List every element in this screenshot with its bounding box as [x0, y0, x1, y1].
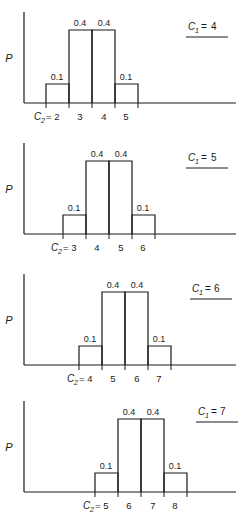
y-axis-label: P [5, 441, 13, 453]
panel-tag-subscript: 1 [195, 158, 199, 165]
panel-tag-subscript: 1 [205, 412, 209, 419]
x-axis-variable-subscript: 2 [40, 117, 45, 124]
tick-label-3: 7 [150, 500, 155, 511]
bar-2 [118, 419, 141, 492]
y-axis-label: P [5, 183, 13, 195]
panel-4-plot: P 0.1 0.4 0.4 0.1 C 2 = 5 6 7 8 C 1 = 7 [0, 393, 241, 524]
value-label-2: 0.4 [107, 280, 120, 290]
panel-1-plot: P 0.1 0.4 0.4 0.1 C 2 = 2 3 4 5 C 1 = 4 [0, 0, 241, 131]
value-label-1: 0.1 [68, 203, 81, 213]
bar-4 [132, 215, 155, 234]
panel-4: P 0.1 0.4 0.4 0.1 C 2 = 5 6 7 8 C 1 = 7 [0, 393, 241, 524]
tick-label-1: 4 [87, 373, 92, 384]
panel-tag-equals: = [211, 406, 217, 417]
tick-label-1: 2 [54, 111, 59, 122]
panel-2: P 0.1 0.4 0.4 0.1 C 2 = 3 4 5 6 C 1 = 5 [0, 131, 241, 262]
bar-3 [109, 161, 132, 234]
x-axis-variable-subscript: 2 [73, 379, 78, 386]
panel-1: P 0.1 0.4 0.4 0.1 C 2 = 2 3 4 5 C 1 = 4 [0, 0, 241, 131]
x-axis-variable-subscript: 2 [57, 248, 62, 255]
panel-tag-equals: = [205, 283, 211, 294]
tick-label-2: 6 [126, 500, 131, 511]
x-axis-equals: = [63, 242, 69, 253]
x-tick-labels: C 2 = 4 5 6 7 [67, 373, 162, 386]
panel-tag: C 1 = 6 [190, 283, 232, 299]
y-axis-label: P [5, 314, 13, 326]
x-tick-labels: C 2 = 2 3 4 5 [34, 111, 129, 124]
panel-2-plot: P 0.1 0.4 0.4 0.1 C 2 = 3 4 5 6 C 1 = 5 [0, 131, 241, 262]
tick-label-1: 3 [71, 242, 76, 253]
x-axis-equals: = [79, 373, 85, 384]
panel-tag: C 1 = 4 [186, 21, 228, 37]
panel-tag-value: 6 [214, 283, 220, 294]
bar-1 [79, 346, 102, 365]
tick-label-3: 6 [134, 373, 139, 384]
value-label-2: 0.4 [123, 407, 136, 417]
panel-tag: C 1 = 7 [196, 406, 238, 422]
y-axis-label: P [5, 52, 13, 64]
tick-label-4: 6 [140, 242, 145, 253]
x-axis-variable-subscript: 2 [89, 506, 94, 513]
panel-tag-equals: = [201, 152, 207, 163]
panel-tag-subscript: 1 [195, 27, 199, 34]
value-label-1: 0.1 [84, 334, 97, 344]
bar-4 [115, 84, 138, 103]
panel-tag-value: 4 [211, 21, 217, 32]
value-label-3: 0.4 [115, 149, 128, 159]
value-label-1: 0.1 [51, 72, 64, 82]
value-label-4: 0.1 [169, 461, 182, 471]
panel-tag-subscript: 1 [199, 289, 203, 296]
figure-multi-panel-histogram: P 0.1 0.4 0.4 0.1 C 2 = 2 3 4 5 C 1 = 4 [0, 0, 241, 524]
bar-1 [46, 84, 69, 103]
value-label-1: 0.1 [100, 461, 113, 471]
x-axis-ticks [63, 234, 155, 239]
x-axis-ticks [95, 492, 187, 497]
bar-4 [148, 346, 171, 365]
tick-label-2: 4 [94, 242, 99, 253]
x-axis-ticks [46, 103, 138, 108]
value-label-3: 0.4 [131, 280, 144, 290]
bar-1 [95, 473, 118, 492]
x-axis-ticks [79, 365, 171, 370]
x-axis-equals: = [46, 111, 52, 122]
value-label-4: 0.1 [153, 334, 166, 344]
x-tick-labels: C 2 = 3 4 5 6 [51, 242, 146, 255]
x-tick-labels: C 2 = 5 6 7 8 [83, 500, 178, 513]
tick-label-4: 8 [172, 500, 177, 511]
tick-label-2: 5 [110, 373, 115, 384]
bar-1 [63, 215, 86, 234]
bar-2 [102, 292, 125, 365]
panel-3-plot: P 0.1 0.4 0.4 0.1 C 2 = 4 5 6 7 C 1 = 6 [0, 262, 241, 393]
panel-tag-value: 7 [220, 406, 226, 417]
value-label-3: 0.4 [98, 18, 111, 28]
tick-label-1: 5 [103, 500, 108, 511]
tick-label-2: 3 [77, 111, 82, 122]
value-label-3: 0.4 [147, 407, 160, 417]
value-label-4: 0.1 [137, 203, 150, 213]
tick-label-4: 5 [123, 111, 128, 122]
panel-tag-equals: = [201, 21, 207, 32]
value-label-2: 0.4 [91, 149, 104, 159]
bar-2 [69, 30, 92, 103]
bar-4 [164, 473, 187, 492]
value-label-2: 0.4 [74, 18, 87, 28]
tick-label-3: 4 [101, 111, 106, 122]
panel-tag: C 1 = 5 [186, 152, 228, 168]
bar-3 [125, 292, 148, 365]
panel-tag-value: 5 [211, 152, 217, 163]
bar-3 [92, 30, 115, 103]
tick-label-4: 7 [156, 373, 161, 384]
bar-3 [141, 419, 164, 492]
bar-2 [86, 161, 109, 234]
tick-label-3: 5 [118, 242, 123, 253]
value-label-4: 0.1 [120, 72, 133, 82]
panel-3: P 0.1 0.4 0.4 0.1 C 2 = 4 5 6 7 C 1 = 6 [0, 262, 241, 393]
x-axis-equals: = [95, 500, 101, 511]
